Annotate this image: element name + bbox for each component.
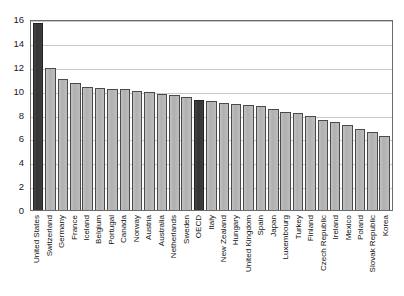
y-axis-tick-label: 16 xyxy=(13,15,24,25)
bar xyxy=(70,83,81,210)
x-axis-label-slot: Netherlands xyxy=(169,213,180,295)
x-axis-label-slot: Canada xyxy=(119,213,130,295)
x-axis-tick-label: Portugal xyxy=(108,215,116,245)
y-axis-tick-label: 6 xyxy=(19,135,24,145)
bar xyxy=(268,109,279,210)
bar xyxy=(120,89,131,210)
x-axis-tick-label: Australia xyxy=(158,215,166,246)
y-axis-tick-label: 0 xyxy=(19,206,24,216)
bar xyxy=(256,106,267,210)
bar xyxy=(330,122,341,210)
x-axis-label-slot: Belgium xyxy=(94,213,105,295)
x-axis-label-slot: Sweden xyxy=(181,213,192,295)
x-axis-tick-label: Norway xyxy=(133,215,141,242)
x-axis-tick-label: Canada xyxy=(120,215,128,243)
x-axis-label-slot: Luxembourg xyxy=(281,213,292,295)
x-axis-tick-label: Japan xyxy=(270,215,278,237)
bar xyxy=(219,103,230,210)
y-axis-tick-label: 10 xyxy=(13,87,24,97)
bar xyxy=(379,136,390,210)
bar xyxy=(82,87,93,210)
x-axis-tick-label: Sweden xyxy=(183,215,191,244)
x-axis-tick-label: Belgium xyxy=(95,215,103,244)
bar xyxy=(181,97,192,210)
bar xyxy=(33,23,44,210)
y-axis-tick-label: 2 xyxy=(19,182,24,192)
x-axis-tick-label: OECD xyxy=(195,215,203,238)
x-axis-label-slot: Australia xyxy=(156,213,167,295)
bar xyxy=(355,129,366,210)
x-axis-tick-label: Netherlands xyxy=(170,215,178,258)
bar xyxy=(107,89,118,210)
bar xyxy=(231,104,242,210)
plot-area xyxy=(30,20,393,211)
x-axis-tick-label: Italy xyxy=(208,215,216,230)
x-axis-tick-label: Spain xyxy=(257,215,265,235)
x-axis-label-slot: Mexico xyxy=(343,213,354,295)
x-axis-tick-label: Germany xyxy=(58,215,66,248)
x-axis-tick-label: Luxembourg xyxy=(282,215,290,259)
y-axis-tick-label: 12 xyxy=(13,63,24,73)
x-axis-label-slot: United Kingdom xyxy=(244,213,255,295)
x-axis-tick-label: Czech Republic xyxy=(320,215,328,271)
x-axis-label-slot: OECD xyxy=(194,213,205,295)
x-axis-tick-label: Ireland xyxy=(332,215,340,239)
x-axis-tick-label: Poland xyxy=(357,215,365,240)
x-axis-tick-label: Mexico xyxy=(345,215,353,240)
bar xyxy=(342,125,353,210)
bar xyxy=(157,94,168,210)
x-axis-tick-label: New Zealand xyxy=(220,215,228,262)
x-axis-label-slot: Poland xyxy=(356,213,367,295)
x-axis-tick-label: Iceland xyxy=(83,215,91,241)
x-axis-tick-label: Switzerland xyxy=(46,215,54,256)
y-axis-tick-label: 14 xyxy=(13,39,24,49)
bar xyxy=(169,95,180,210)
bar xyxy=(45,68,56,210)
x-axis-label-slot: France xyxy=(69,213,80,295)
bar xyxy=(194,100,205,210)
x-axis-label-slot: Finland xyxy=(306,213,317,295)
bar xyxy=(280,112,291,210)
bar-series xyxy=(31,21,392,210)
y-axis: 0246810121416 xyxy=(0,20,28,211)
x-axis-label-slot: Japan xyxy=(269,213,280,295)
bar xyxy=(206,101,217,210)
y-axis-tick-label: 4 xyxy=(19,159,24,169)
x-axis-label-slot: Ireland xyxy=(331,213,342,295)
x-axis-tick-label: France xyxy=(71,215,79,240)
bar xyxy=(95,88,106,210)
x-axis-label-slot: Czech Republic xyxy=(318,213,329,295)
x-axis-label-slot: Portugal xyxy=(107,213,118,295)
x-axis-tick-label: Hungary xyxy=(232,215,240,245)
x-axis-label-slot: Austria xyxy=(144,213,155,295)
x-axis-label-slot: Italy xyxy=(206,213,217,295)
x-axis-label-slot: Korea xyxy=(381,213,392,295)
bar xyxy=(318,120,329,210)
x-axis-label-slot: New Zealand xyxy=(219,213,230,295)
bar xyxy=(293,113,304,210)
bar-chart: 0246810121416 United StatesSwitzerlandGe… xyxy=(0,0,404,296)
x-axis-tick-label: Slovak Republic xyxy=(369,215,377,272)
x-axis-label-slot: Norway xyxy=(132,213,143,295)
x-axis-label-slot: Switzerland xyxy=(44,213,55,295)
bar xyxy=(243,105,254,210)
x-axis-tick-label: United States xyxy=(33,215,41,263)
x-axis-label-slot: Slovak Republic xyxy=(368,213,379,295)
x-axis-label-slot: Germany xyxy=(57,213,68,295)
x-axis-tick-label: Austria xyxy=(145,215,153,240)
x-axis-label-slot: Turkey xyxy=(293,213,304,295)
x-axis-label-slot: Iceland xyxy=(82,213,93,295)
x-axis-tick-label: Korea xyxy=(382,215,390,236)
bar xyxy=(58,79,69,210)
x-axis-tick-label: Finland xyxy=(307,215,315,241)
x-axis-label-slot: Hungary xyxy=(231,213,242,295)
y-axis-tick-label: 8 xyxy=(19,111,24,121)
bar xyxy=(132,91,143,210)
bar xyxy=(367,132,378,210)
x-axis-tick-label: Turkey xyxy=(295,215,303,239)
x-axis-tick-label: United Kingdom xyxy=(245,215,253,272)
x-axis-label-slot: Spain xyxy=(256,213,267,295)
bar xyxy=(144,92,155,210)
x-axis-labels: United StatesSwitzerlandGermanyFranceIce… xyxy=(30,213,393,295)
x-axis-label-slot: United States xyxy=(32,213,43,295)
